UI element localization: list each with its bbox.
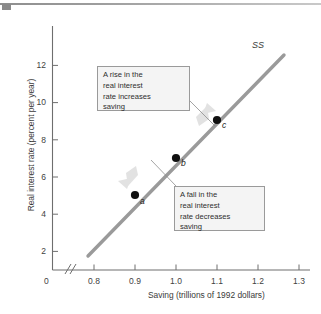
data-point-a: [131, 191, 139, 199]
x-axis-break-icon: [65, 264, 76, 274]
xtick-label-1-0: 1.0: [163, 276, 189, 286]
callout-fall: A fall in the real interest rate decreas…: [174, 186, 265, 231]
y-axis-title: Real interest rate (percent per year): [26, 58, 36, 233]
down-arrow-on-curve: [118, 166, 138, 189]
data-point-c: [213, 116, 221, 124]
up-arrow-on-curve: [196, 103, 216, 126]
point-label-c: c: [222, 120, 226, 130]
callout-fall-line-1: A fall in the: [180, 190, 260, 201]
callout-fall-line-2: real interest: [180, 201, 260, 212]
ss-curve-label: SS: [252, 40, 264, 50]
callout-rise-line-2: real interest: [103, 81, 185, 92]
data-point-b: [172, 154, 180, 162]
callout-rise: A rise in the real interest rate increas…: [97, 66, 190, 111]
xtick-label-1-2: 1.2: [245, 276, 271, 286]
point-label-a: a: [140, 196, 145, 206]
x-axis-ticks: [94, 265, 299, 271]
axes-group: [53, 26, 311, 270]
callout-rise-line-3: rate increases: [103, 92, 185, 103]
ytick-label-2: 2: [26, 246, 46, 256]
callout-fall-line-3: rate decreases: [180, 212, 260, 223]
callout-rise-line-4: saving: [103, 102, 185, 113]
y-axis-ticks: [53, 65, 59, 251]
callout-rise-line-1: A rise in the: [103, 70, 185, 81]
chart-canvas: [0, 0, 321, 314]
leader-line-fall: [151, 160, 176, 186]
point-label-b: b: [181, 158, 186, 168]
x-axis-title: Saving (trillions of 1992 dollars): [148, 290, 265, 300]
xtick-label-0-8: 0.8: [81, 276, 107, 286]
xtick-label-1-1: 1.1: [204, 276, 230, 286]
xtick-label-1-3: 1.3: [286, 276, 312, 286]
xtick-label-0-9: 0.9: [122, 276, 148, 286]
figure-container: 2 4 6 8 10 12 0 0.8 0.9 1.0 1.1 1.2 1.3 …: [0, 0, 321, 314]
origin-label: 0: [44, 276, 49, 286]
callout-fall-line-4: saving: [180, 222, 260, 233]
